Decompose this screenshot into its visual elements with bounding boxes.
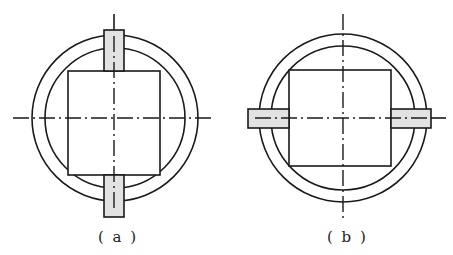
figure-a: [13, 14, 212, 217]
diagram-canvas: [0, 0, 453, 255]
caption-b: ( b ): [327, 228, 368, 246]
figure-b: [248, 14, 446, 222]
caption-a: ( a ): [98, 228, 138, 246]
